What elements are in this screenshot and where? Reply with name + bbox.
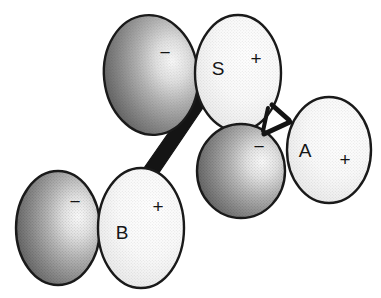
a-negative	[197, 124, 285, 218]
b-negative-charge-sign: −	[69, 191, 80, 212]
a-negative-texture	[198, 125, 284, 217]
s-positive-label: S	[212, 58, 225, 79]
sphere-layer	[16, 10, 371, 288]
b-negative	[16, 171, 100, 285]
bond-layer-front	[263, 105, 290, 134]
bond-s-a-upper	[272, 105, 289, 120]
dipole-sphere-diagram: −S+−A+−B+	[0, 0, 381, 298]
b-positive-charge-sign: +	[152, 196, 163, 217]
b-positive-texture	[99, 169, 183, 287]
b-negative-texture	[17, 172, 99, 284]
diagram-canvas: −S+−A+−B+	[0, 0, 381, 298]
a-negative-charge-sign: −	[253, 136, 264, 157]
s-positive-charge-sign: +	[250, 48, 261, 69]
s-negative-charge-sign: −	[159, 42, 170, 63]
b-positive	[98, 168, 184, 288]
a-positive-label: A	[299, 140, 312, 161]
b-positive-label: B	[116, 222, 129, 243]
a-positive-charge-sign: +	[339, 149, 350, 170]
bond-s-a-lower	[264, 122, 290, 134]
